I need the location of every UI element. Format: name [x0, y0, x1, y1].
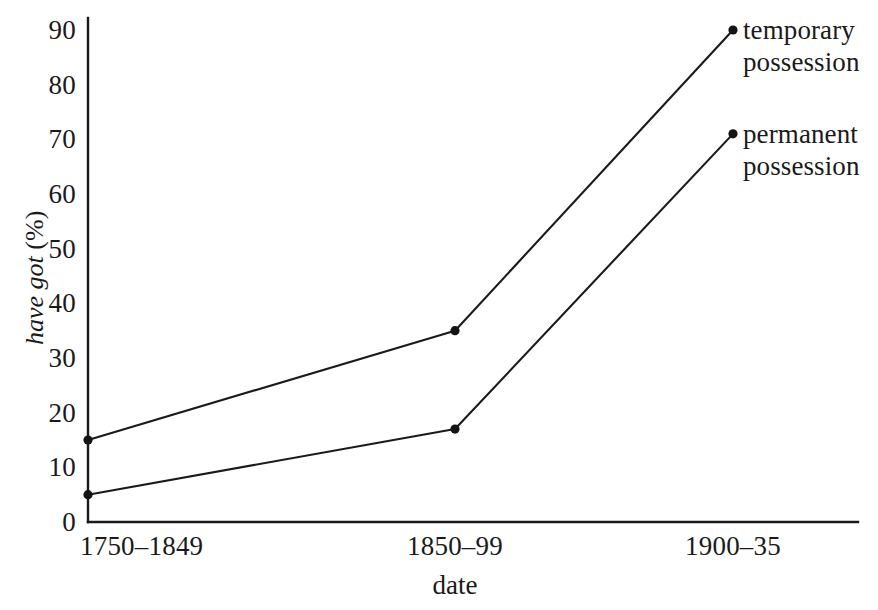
line-chart: 0102030405060708090 1750–18491850–991900…	[0, 0, 878, 610]
series-line-1	[88, 134, 733, 495]
y-tick-label: 50	[49, 236, 76, 263]
y-tick-label: 10	[49, 454, 76, 481]
y-tick-label: 40	[49, 290, 76, 317]
y-axis-title-unit	[20, 250, 49, 257]
data-point-marker	[728, 25, 737, 34]
y-axis-title-unit-text: (%)	[20, 211, 49, 250]
data-point-marker	[728, 129, 737, 138]
data-point-marker	[83, 490, 92, 499]
series-line-0	[88, 30, 733, 440]
y-tick-label: 30	[49, 345, 76, 372]
data-point-marker	[450, 424, 459, 433]
series-label-0: temporarypossession	[743, 15, 860, 79]
chart-plot-area	[0, 0, 878, 610]
y-tick-label: 90	[49, 17, 76, 44]
y-tick-label: 60	[49, 181, 76, 208]
axes-group	[88, 18, 858, 522]
x-tick-label: 1750–1849	[80, 533, 203, 560]
series-label-line2: possession	[743, 47, 860, 79]
y-axis-title-name: have got	[20, 256, 49, 345]
y-tick-label: 80	[49, 72, 76, 99]
data-point-marker	[83, 435, 92, 444]
y-tick-label: 20	[49, 400, 76, 427]
y-tick-label: 0	[62, 509, 76, 536]
series-group	[83, 25, 737, 499]
series-label-1: permanentpossession	[743, 119, 860, 183]
x-axis-title: date	[433, 572, 478, 599]
series-label-line1: temporary	[743, 15, 860, 47]
y-axis-title: have got (%)	[22, 211, 48, 345]
series-label-line1: permanent	[743, 119, 860, 151]
series-label-line2: possession	[743, 151, 860, 183]
x-tick-label: 1850–99	[407, 533, 503, 560]
data-point-marker	[450, 326, 459, 335]
y-tick-label: 70	[49, 126, 76, 153]
x-tick-label: 1900–35	[685, 533, 781, 560]
